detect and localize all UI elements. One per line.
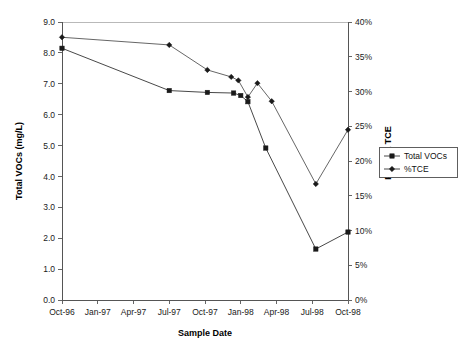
x-tick-label: Apr-97 — [121, 307, 147, 317]
y-tick-label: 0.0 — [43, 295, 55, 305]
data-point-marker-square — [60, 46, 64, 50]
x-tick-label: Jan-98 — [228, 307, 254, 317]
y2-tick-label: 5% — [355, 260, 368, 270]
x-axis-title: Sample Date — [178, 328, 232, 338]
y2-tick-label: 25% — [355, 121, 372, 131]
x-tick-label: Oct-96 — [49, 307, 75, 317]
legend-label: Total VOCs — [404, 151, 447, 161]
x-tick-label: Jan-97 — [85, 307, 111, 317]
y-tick-label: 5.0 — [43, 141, 55, 151]
x-tick-label: Jul-97 — [158, 307, 181, 317]
y2-tick-label: 10% — [355, 226, 372, 236]
x-tick-label: Jul-98 — [301, 307, 324, 317]
y2-tick-label: 15% — [355, 191, 372, 201]
data-point-marker-square — [205, 90, 209, 94]
y-tick-label: 4.0 — [43, 172, 55, 182]
data-point-marker-square — [246, 99, 250, 103]
x-tick-label: Oct-97 — [192, 307, 218, 317]
x-tick-label: Apr-98 — [264, 307, 290, 317]
data-point-marker-square — [346, 230, 350, 234]
y2-tick-label: 20% — [355, 156, 372, 166]
y-tick-label: 3.0 — [43, 202, 55, 212]
legend-label: %TCE — [404, 164, 429, 174]
y2-tick-label: 40% — [355, 17, 372, 27]
y-axis-left-title: Total VOCs (mg/L) — [14, 122, 24, 200]
chart-container: 0.01.02.03.04.05.06.07.08.09.0 0%5%10%15… — [0, 0, 463, 344]
y-tick-label: 1.0 — [43, 264, 55, 274]
y2-tick-label: 30% — [355, 87, 372, 97]
y-tick-label: 9.0 — [43, 17, 55, 27]
y-tick-label: 6.0 — [43, 110, 55, 120]
y2-tick-label: 35% — [355, 52, 372, 62]
voc-tce-line-chart: 0.01.02.03.04.05.06.07.08.09.0 0%5%10%15… — [0, 0, 463, 344]
data-point-marker-square — [167, 88, 171, 92]
data-point-marker-square — [239, 93, 243, 97]
y2-tick-label: 0% — [355, 295, 368, 305]
y-tick-label: 7.0 — [43, 79, 55, 89]
y-tick-label: 2.0 — [43, 233, 55, 243]
data-point-marker-square — [264, 146, 268, 150]
legend-marker-square — [390, 154, 394, 158]
x-tick-label: Oct-98 — [335, 307, 361, 317]
chart-legend: Total VOCs%TCE — [379, 147, 457, 177]
y-tick-label: 8.0 — [43, 48, 55, 58]
data-point-marker-square — [314, 247, 318, 251]
data-point-marker-square — [231, 91, 235, 95]
